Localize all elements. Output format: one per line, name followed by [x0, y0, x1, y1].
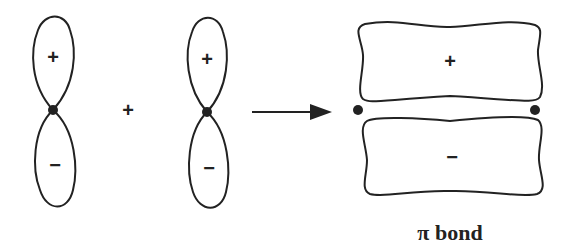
- pi-bond-top-sign: +: [444, 50, 456, 72]
- pi-bond-diagram: + − + + − + − π bond: [0, 0, 570, 250]
- reaction-arrow: [252, 104, 332, 120]
- plus-operator: +: [122, 99, 134, 121]
- pi-bond-nucleus-right: [530, 105, 540, 115]
- arrow-head-icon: [310, 104, 332, 120]
- p-orbital-1: + −: [33, 17, 75, 207]
- p-orbital-1-top-sign: +: [47, 46, 59, 68]
- pi-bond-nucleus-left: [353, 105, 363, 115]
- p-orbital-1-bottom-sign: −: [49, 154, 61, 176]
- nucleus-1: [48, 105, 58, 115]
- pi-bond-label: π bond: [417, 220, 482, 245]
- pi-bond: + − π bond: [353, 22, 543, 245]
- p-orbital-2-top-sign: +: [201, 48, 213, 70]
- nucleus-2: [202, 107, 212, 117]
- pi-bond-bottom-sign: −: [446, 146, 458, 168]
- p-orbital-2: + −: [188, 18, 229, 208]
- p-orbital-2-bottom-sign: −: [203, 157, 215, 179]
